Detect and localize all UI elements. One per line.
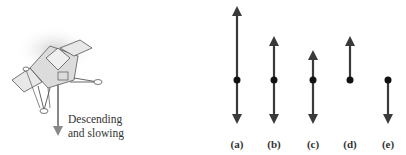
force-diagram-options [232,6,393,124]
option-c-arrows [308,50,318,124]
option-label-c: (c) [307,138,319,150]
figure-canvas [0,0,406,155]
option-b-arrows [269,36,279,124]
option-d-arrows [345,36,355,84]
lander-caption: Descending and slowing [68,112,124,140]
option-label-a: (a) [231,138,244,150]
option-label-b: (b) [267,138,280,150]
option-a-arrows [232,6,242,124]
option-e-arrows [383,77,393,125]
caption-line-2: and slowing [68,126,124,140]
caption-line-1: Descending [68,112,124,126]
option-label-e: (e) [382,138,394,150]
option-label-d: (d) [343,138,356,150]
